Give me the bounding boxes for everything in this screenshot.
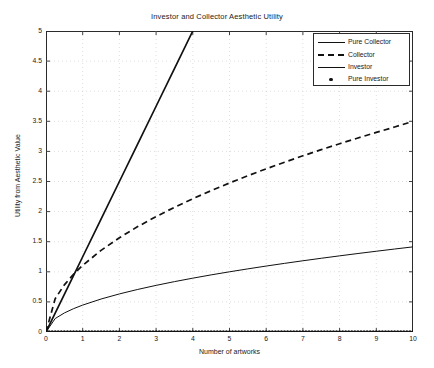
y-tick-label: 4.5: [2, 57, 42, 64]
legend-item: Pure Investor: [314, 73, 409, 85]
x-tick-label: 4: [181, 335, 205, 342]
legend-item-label: Pure Collector: [348, 36, 391, 48]
y-tick-label: 1.5: [2, 237, 42, 244]
legend-solid-thin-line-icon: [314, 61, 348, 73]
chart-legend: Pure CollectorCollectorInvestorPure Inve…: [313, 33, 410, 86]
series-collector: [46, 121, 413, 332]
y-tick-label: 3.5: [2, 117, 42, 124]
series-pure-investor: [46, 330, 413, 332]
x-tick-label: 10: [401, 335, 425, 342]
y-tick-label: 3: [2, 147, 42, 154]
legend-dot-marker-icon: [314, 73, 348, 85]
chart-figure: Investor and Collector Aesthetic Utility…: [0, 0, 434, 368]
x-tick-label: 6: [254, 335, 278, 342]
y-tick-label: 5: [2, 27, 42, 34]
x-tick-label: 2: [107, 335, 131, 342]
x-tick-label: 0: [34, 335, 58, 342]
legend-item-label: Investor: [348, 61, 372, 73]
x-tick-label: 9: [364, 335, 388, 342]
x-tick-label: 1: [71, 335, 95, 342]
y-tick-label: 0.5: [2, 297, 42, 304]
y-axis-tick-labels: 00.511.522.533.544.55: [0, 0, 42, 368]
x-axis-label: Number of artworks: [46, 348, 413, 355]
y-tick-label: 1: [2, 267, 42, 274]
legend-item: Collector: [314, 48, 409, 60]
y-tick-label: 2.5: [2, 177, 42, 184]
y-tick-label: 0: [2, 328, 42, 335]
x-tick-label: 8: [328, 335, 352, 342]
legend-item: Investor: [314, 61, 409, 73]
x-tick-label: 7: [291, 335, 315, 342]
legend-dashed-line-icon: [314, 49, 348, 61]
y-tick-label: 2: [2, 207, 42, 214]
legend-item-label: Pure Investor: [348, 73, 388, 85]
x-tick-label: 5: [218, 335, 242, 342]
chart-title: Investor and Collector Aesthetic Utility: [0, 12, 434, 21]
legend-solid-thick-line-icon: [314, 36, 348, 48]
x-tick-label: 3: [144, 335, 168, 342]
y-tick-label: 4: [2, 87, 42, 94]
legend-item-label: Collector: [348, 49, 375, 61]
legend-item: Pure Collector: [314, 36, 409, 48]
